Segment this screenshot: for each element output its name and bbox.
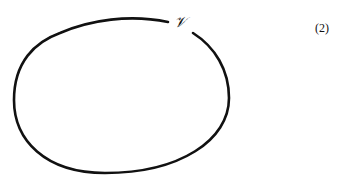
curve-label: 𝒱 xyxy=(174,13,186,31)
oval-curve xyxy=(14,18,229,173)
oval-curve-diagram xyxy=(0,0,341,180)
equation-number: (2) xyxy=(315,21,329,36)
